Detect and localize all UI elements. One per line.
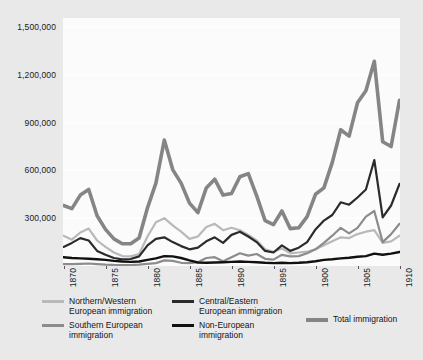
- x-tick-label: 1885: [194, 268, 204, 287]
- x-axis: 187018751880188518901895190019051910: [63, 266, 400, 300]
- x-tick-mark: [358, 266, 359, 269]
- chart-legend: Northern/Western European immigration So…: [0, 296, 423, 356]
- x-tick-mark: [148, 266, 149, 269]
- immigration-line-chart: 1,500,0001,200,000900,000600,000300,000 …: [0, 0, 423, 360]
- data-series-layer: [63, 18, 400, 266]
- x-tick-mark: [190, 266, 191, 269]
- x-tick-label: 1870: [68, 268, 78, 287]
- y-tick-label: 600,000: [25, 165, 56, 175]
- legend-label-northern-western: Northern/Western European immigration: [69, 296, 152, 316]
- x-tick-mark: [106, 266, 107, 269]
- x-tick-mark: [400, 266, 401, 269]
- x-tick-mark: [316, 266, 317, 269]
- legend-item-total: Total immigration: [306, 314, 397, 324]
- y-axis: 1,500,0001,200,000900,000600,000300,000: [0, 0, 60, 280]
- legend-label-total: Total immigration: [333, 314, 397, 324]
- legend-label-central-eastern: Central/Eastern European immigration: [199, 296, 282, 316]
- legend-label-non-european: Non-European immigration: [199, 320, 254, 340]
- x-tick-label: 1910: [404, 268, 414, 287]
- x-tick-mark: [274, 266, 275, 269]
- legend-label-southern: Southern European immigration: [69, 320, 143, 340]
- legend-item-northern-western: Northern/Western European immigration: [42, 296, 152, 316]
- x-tick-label: 1905: [362, 268, 372, 287]
- y-tick-label: 1,500,000: [17, 22, 56, 32]
- legend-item-non-european: Non-European immigration: [172, 320, 254, 340]
- x-tick-label: 1895: [278, 268, 288, 287]
- legend-swatch-total: [306, 318, 328, 322]
- legend-item-southern: Southern European immigration: [42, 320, 143, 340]
- series-line-4: [64, 61, 400, 243]
- legend-swatch-southern: [42, 324, 64, 327]
- legend-swatch-northern-western: [42, 300, 64, 303]
- x-tick-mark: [64, 266, 65, 269]
- x-tick-label: 1880: [152, 268, 162, 287]
- y-tick-label: 300,000: [25, 213, 56, 223]
- x-tick-label: 1900: [320, 268, 330, 287]
- series-line-2: [64, 160, 400, 259]
- legend-swatch-non-european: [172, 324, 194, 327]
- x-tick-label: 1875: [110, 268, 120, 287]
- x-tick-label: 1890: [236, 268, 246, 287]
- y-tick-label: 1,200,000: [17, 70, 56, 80]
- x-tick-mark: [232, 266, 233, 269]
- legend-swatch-central-eastern: [172, 300, 194, 303]
- y-tick-label: 900,000: [25, 118, 56, 128]
- legend-item-central-eastern: Central/Eastern European immigration: [172, 296, 282, 316]
- plot-area: [63, 18, 400, 266]
